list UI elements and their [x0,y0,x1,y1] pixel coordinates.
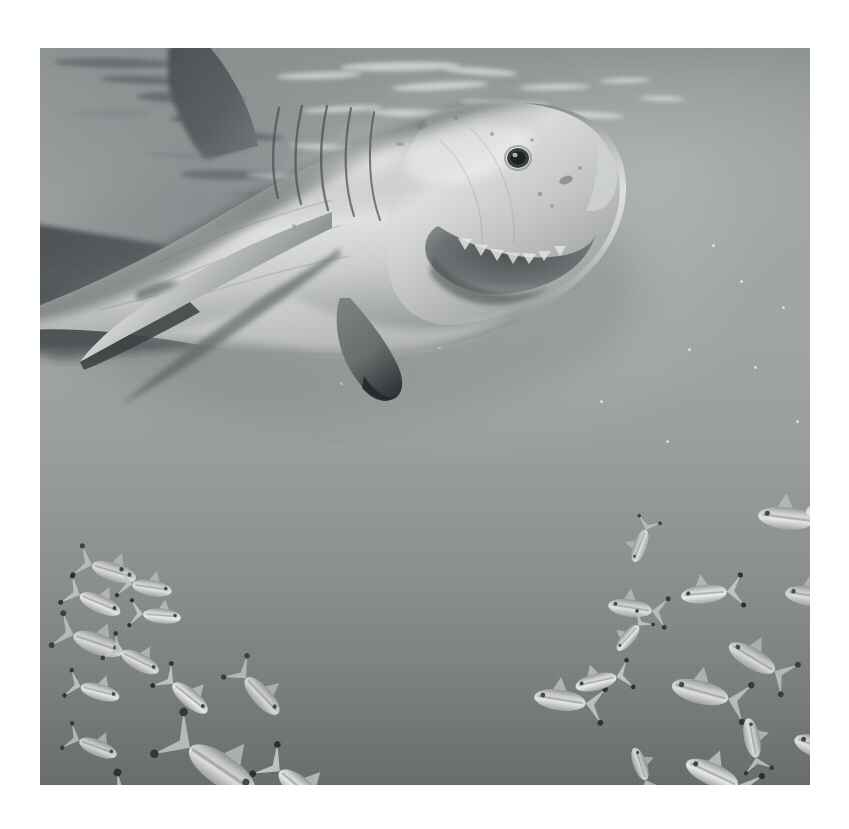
page-root: Great white shark with pilot fish Underw… [0,0,849,829]
film-grain [40,48,810,785]
photo-canvas [40,48,810,785]
photograph [40,48,810,785]
